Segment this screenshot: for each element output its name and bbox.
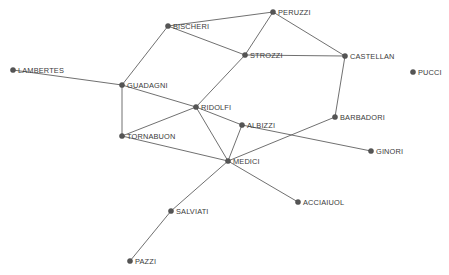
edge-lambertes-guadagni: [13, 70, 122, 85]
edge-ridolfi-albizzi: [196, 107, 242, 125]
edge-peruzzi-castellan: [273, 12, 345, 56]
edges-layer: [13, 12, 371, 261]
edge-medici-salviati: [171, 161, 228, 211]
edge-strozzi-ridolfi: [196, 55, 245, 107]
edge-bischeri-peruzzi: [168, 12, 273, 26]
node-acciaiuol[interactable]: [295, 199, 300, 204]
edge-ridolfi-tornabuon: [122, 107, 196, 136]
edge-guadagni-bischeri: [122, 26, 168, 85]
edge-peruzzi-strozzi: [245, 12, 273, 55]
node-guadagni[interactable]: [119, 82, 124, 87]
node-castellan[interactable]: [342, 53, 347, 58]
node-lambertes[interactable]: [10, 67, 15, 72]
node-pucci[interactable]: [410, 69, 415, 74]
edge-ridolfi-medici: [196, 107, 228, 161]
node-medici[interactable]: [225, 158, 230, 163]
edge-medici-acciaiuol: [228, 161, 298, 202]
edge-strozzi-castellan: [245, 55, 345, 56]
edge-bischeri-strozzi: [168, 26, 245, 55]
edge-tornabuon-medici: [122, 136, 228, 161]
node-bischeri[interactable]: [165, 23, 170, 28]
node-pazzi[interactable]: [127, 258, 132, 263]
edge-salviati-pazzi: [130, 211, 171, 261]
edge-castellan-barbadori: [335, 56, 345, 117]
node-peruzzi[interactable]: [270, 9, 275, 14]
network-diagram: LAMBERTESBISCHERIPERUZZISTROZZICASTELLAN…: [0, 0, 449, 275]
network-graph-svg: [0, 0, 449, 275]
node-strozzi[interactable]: [242, 52, 247, 57]
edge-albizzi-medici: [228, 125, 242, 161]
node-tornabuon[interactable]: [119, 133, 124, 138]
node-salviati[interactable]: [168, 208, 173, 213]
node-ridolfi[interactable]: [193, 104, 198, 109]
edge-guadagni-ridolfi: [122, 85, 196, 107]
node-barbadori[interactable]: [332, 114, 337, 119]
node-albizzi[interactable]: [239, 122, 244, 127]
node-ginori[interactable]: [368, 148, 373, 153]
